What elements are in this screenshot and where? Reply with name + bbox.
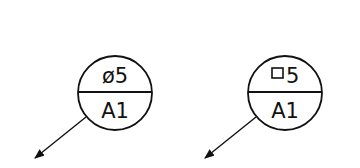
size-label: 5 xyxy=(286,64,299,88)
datum-target-symbol-2: 5 A1 xyxy=(205,56,322,158)
leader-arrow xyxy=(35,117,86,158)
datum-target-symbol-1: ø5 A1 xyxy=(35,56,152,158)
datum-label: A1 xyxy=(101,99,129,123)
datum-label: A1 xyxy=(271,99,299,123)
square-symbol-icon xyxy=(272,68,283,78)
leader-arrow xyxy=(205,117,256,158)
datum-target-diagram: ø5 A1 5 A1 xyxy=(0,0,360,168)
size-label: ø5 xyxy=(102,64,128,88)
